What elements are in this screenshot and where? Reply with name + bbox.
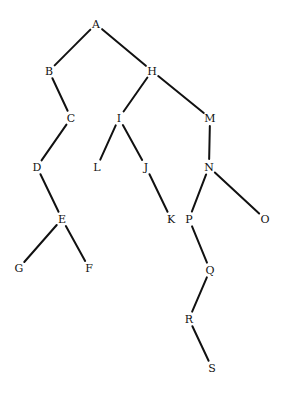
edge-e-g — [24, 225, 56, 262]
node-c: C — [67, 112, 75, 125]
edge-p-q — [192, 226, 207, 262]
edge-b-c — [52, 78, 67, 111]
edge-e-f — [66, 226, 85, 261]
edge-h-i — [124, 78, 148, 112]
node-o: O — [260, 213, 269, 226]
node-a: A — [91, 18, 101, 31]
node-f: F — [85, 262, 93, 275]
edge-m-n — [209, 126, 210, 159]
node-d: D — [33, 161, 42, 174]
edge-c-d — [42, 125, 67, 161]
node-e: E — [58, 213, 66, 226]
node-p: P — [185, 213, 193, 226]
node-j: J — [143, 161, 148, 174]
edge-i-j — [123, 125, 142, 160]
tree-edges — [24, 29, 259, 361]
node-h: H — [147, 65, 157, 78]
node-l: L — [93, 161, 101, 174]
edge-n-o — [215, 172, 259, 213]
edge-i-l — [100, 125, 115, 159]
node-r: R — [185, 313, 194, 326]
node-b: B — [45, 65, 53, 78]
edge-a-b — [55, 30, 91, 66]
node-n: N — [204, 161, 214, 174]
node-g: G — [15, 262, 24, 275]
edge-j-k — [149, 174, 167, 212]
edge-a-h — [102, 29, 146, 66]
edge-r-s — [192, 326, 208, 361]
node-q: Q — [205, 264, 214, 277]
node-s: S — [208, 362, 216, 375]
node-k: K — [167, 213, 176, 226]
tree-node-labels: ABHCIMDLJNEKPOGFQRS — [15, 18, 270, 375]
tree-diagram: ABHCIMDLJNEKPOGFQRS — [0, 0, 284, 395]
edge-q-r — [192, 277, 207, 311]
edge-h-m — [158, 76, 204, 113]
edge-n-p — [192, 174, 206, 211]
edge-d-e — [40, 174, 58, 212]
node-m: M — [204, 112, 215, 125]
node-i: I — [117, 112, 121, 125]
